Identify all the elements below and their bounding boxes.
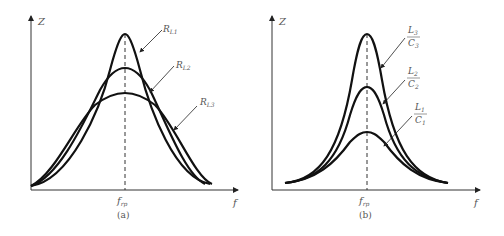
svg-text:L3: L3 [407,25,418,36]
pointer-l3c3 [381,38,405,68]
pointer-rl2 [150,66,174,92]
pointer-l2c2 [383,80,405,104]
svg-text:C3: C3 [408,38,419,49]
x-axis-label: f [473,197,480,208]
svg-text:C2: C2 [408,79,419,90]
caption: (b) [359,210,372,220]
y-axis-label: Z [278,16,287,27]
panel-a: Z f frp (a) RL1 RL2 RL3 [31,16,239,220]
label-rl3: RL3 [199,97,215,108]
x-axis-label: f [232,197,239,208]
pointer-rl1 [140,30,162,52]
label-rl1: RL1 [162,24,178,35]
label-rl2: RL2 [175,60,191,71]
resonance-diagram: Z f frp (a) RL1 RL2 RL3 Z f frp (b) [0,0,504,236]
pointer-rl3 [174,106,197,130]
svg-text:C1: C1 [415,115,426,126]
panel-b: Z f frp (b) L3 C3 L2 C2 L1 C1 [272,16,480,220]
label-l1c1: L1 C1 [414,102,427,126]
caption: (a) [117,210,129,220]
y-axis-label: Z [37,16,46,27]
center-freq-label: frp [116,195,128,208]
curve-rl2 [31,68,205,186]
center-freq-label: frp [358,195,370,208]
svg-text:L1: L1 [414,102,425,113]
svg-text:L2: L2 [407,66,418,77]
label-l2c2: L2 C2 [407,66,420,90]
label-l3c3: L3 C3 [407,25,420,49]
